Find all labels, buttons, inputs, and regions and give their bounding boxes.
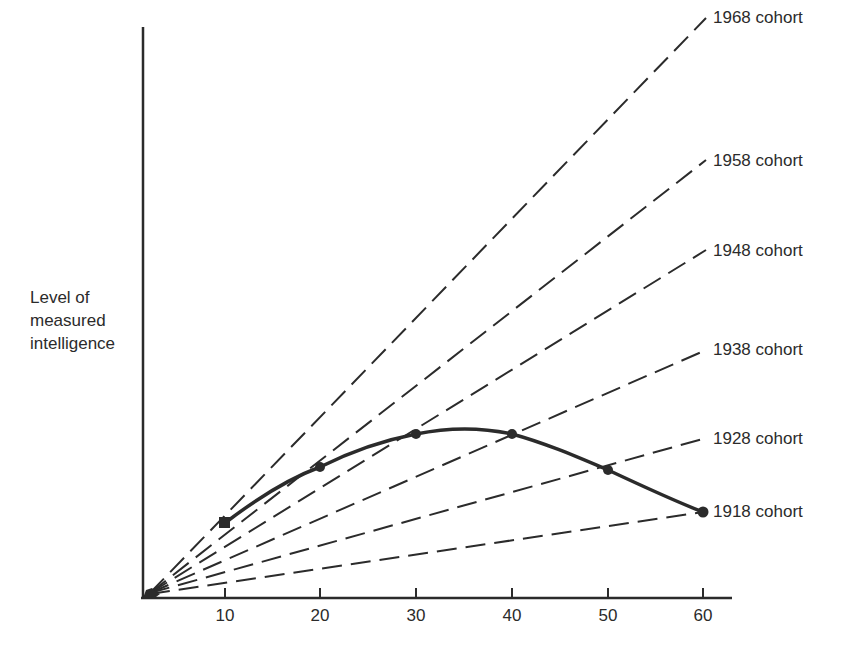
marker-age-10: [219, 517, 230, 528]
marker-age-30: [411, 429, 421, 439]
marker-age-40: [507, 429, 517, 439]
chart-canvas: [0, 0, 858, 658]
line-1968-cohort: [150, 18, 706, 593]
x-tick-label-50: 50: [588, 606, 628, 626]
x-tick-label-10: 10: [205, 606, 245, 626]
cross-sectional-curve: [225, 429, 703, 523]
marker-age-60: [698, 507, 709, 518]
series-label-1948: 1948 cohort: [713, 241, 803, 261]
series-label-1938: 1938 cohort: [713, 340, 803, 360]
y-axis-label-line-3: intelligence: [30, 332, 115, 355]
series-label-1928: 1928 cohort: [713, 429, 803, 449]
x-ticks: [225, 588, 703, 598]
line-1918-cohort: [150, 512, 703, 594]
y-axis-label-line-2: measured: [30, 309, 115, 332]
y-axis-label-line-1: Level of: [30, 286, 115, 309]
line-1948-cohort: [150, 250, 706, 593]
marker-age-50: [603, 465, 613, 475]
marker-age-20: [315, 462, 325, 472]
series-label-1958: 1958 cohort: [713, 151, 803, 171]
cohort-lines: [150, 18, 706, 594]
line-1938-cohort: [150, 350, 706, 593]
series-label-1918: 1918 cohort: [713, 502, 803, 522]
line-1958-cohort: [150, 160, 706, 593]
x-tick-label-40: 40: [492, 606, 532, 626]
series-label-1968: 1968 cohort: [713, 8, 803, 28]
x-tick-label-60: 60: [683, 606, 723, 626]
x-tick-label-20: 20: [300, 606, 340, 626]
x-tick-label-30: 30: [396, 606, 436, 626]
y-axis-label: Level of measured intelligence: [30, 286, 115, 355]
